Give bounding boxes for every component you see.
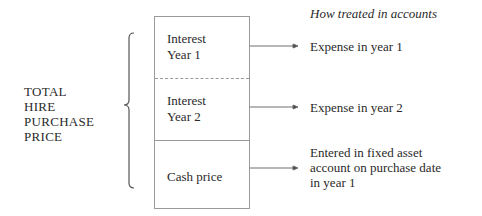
segment-interest-year-2: Interest Year 2 (167, 93, 206, 125)
curly-brace-icon (124, 33, 134, 188)
segment-line: Interest (167, 31, 206, 47)
segment-cash-price: Cash price (167, 169, 222, 185)
treatment-year-1: Expense in year 1 (310, 39, 403, 54)
treatment-line: in year 1 (310, 175, 441, 190)
arrow-icon (250, 105, 298, 109)
segment-line: Year 1 (167, 47, 206, 63)
segment-line: Interest (167, 93, 206, 109)
treatment-line: Expense in year 1 (310, 39, 403, 54)
solid-divider (155, 140, 249, 141)
arrow-icon (250, 44, 298, 48)
treatment-line: Entered in fixed asset (310, 145, 441, 160)
segment-line: Cash price (167, 169, 222, 185)
treatment-line: account on purchase date (310, 160, 441, 175)
segment-line: Year 2 (167, 109, 206, 125)
dashed-divider (155, 78, 249, 79)
segment-interest-year-1: Interest Year 1 (167, 31, 206, 63)
column-heading: How treated in accounts (310, 6, 437, 22)
arrow-icon (250, 166, 298, 170)
treatment-line: Expense in year 2 (310, 100, 403, 115)
treatment-year-2: Expense in year 2 (310, 100, 403, 115)
treatment-cash-price: Entered in fixed asset account on purcha… (310, 145, 441, 190)
